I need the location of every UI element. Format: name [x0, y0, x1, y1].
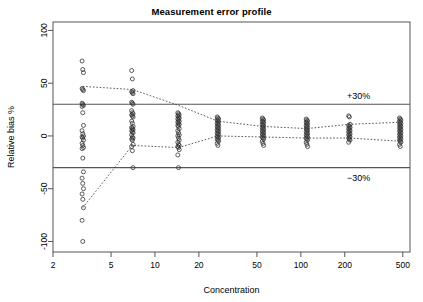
x-axis-ticks: 25102050100200500	[51, 252, 411, 270]
x-tick-label: 10	[150, 260, 160, 270]
x-tick-label: 5	[109, 260, 114, 270]
data-point	[176, 153, 180, 157]
y-tick-label: -100	[39, 233, 49, 250]
data-points-layer	[80, 59, 403, 243]
data-point	[81, 181, 85, 185]
x-tick-label: 100	[294, 260, 308, 270]
measurement-error-profile-plot: -100-50050100 25102050100200500 +30% −30…	[0, 0, 423, 302]
x-tick-label: 20	[194, 260, 204, 270]
data-point	[81, 197, 85, 201]
data-point	[80, 192, 84, 196]
data-point	[81, 187, 85, 191]
x-tick-label: 50	[252, 260, 262, 270]
data-point	[81, 111, 85, 115]
data-point	[130, 149, 134, 153]
lower-limit-label: −30%	[347, 173, 370, 183]
data-point	[80, 176, 84, 180]
y-axis-ticks: -100-50050100	[39, 23, 53, 250]
data-point	[81, 156, 85, 160]
data-point	[130, 77, 134, 81]
y-tick-label: -50	[39, 182, 49, 195]
y-tick-label: 100	[39, 23, 49, 37]
data-point	[81, 123, 85, 127]
y-tick-label: 0	[39, 133, 49, 138]
data-point	[81, 170, 85, 174]
x-axis-title: Concentration	[203, 285, 259, 295]
data-point	[130, 69, 134, 73]
data-point	[80, 218, 84, 222]
plot-frame	[53, 22, 410, 252]
x-tick-label: 200	[338, 260, 352, 270]
y-axis-title: Relative bias %	[6, 106, 16, 168]
data-point	[81, 239, 85, 243]
upper-limit-label: +30%	[347, 91, 370, 101]
x-tick-label: 500	[396, 260, 410, 270]
x-tick-label: 2	[51, 260, 56, 270]
y-tick-label: 50	[39, 78, 49, 88]
chart-container: Measurement error profile -100-50050100 …	[0, 0, 423, 302]
data-point	[80, 59, 84, 63]
